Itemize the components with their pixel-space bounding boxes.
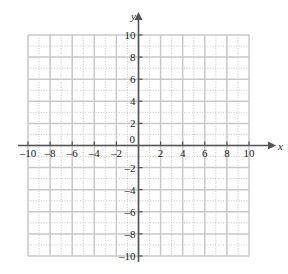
y-tick-label: 8 xyxy=(130,51,136,63)
y-tick-label: 6 xyxy=(130,73,136,85)
y-axis-label: y xyxy=(130,10,136,22)
y-tick-label: 2 xyxy=(130,117,136,129)
x-tick-label: 4 xyxy=(180,147,186,159)
figure-background xyxy=(0,0,288,274)
x-tick-label: –6 xyxy=(66,147,79,159)
x-tick-label: –2 xyxy=(110,147,122,159)
x-axis-label: x xyxy=(277,140,283,152)
x-tick-label: –10 xyxy=(19,147,37,159)
origin-label: 0 xyxy=(130,133,136,145)
y-tick-label: –4 xyxy=(124,184,137,196)
y-tick-label: –8 xyxy=(124,228,137,240)
x-tick-label: 10 xyxy=(244,147,256,159)
y-tick-label: –2 xyxy=(124,162,136,174)
y-tick-label: 4 xyxy=(130,95,136,107)
x-tick-label: 2 xyxy=(158,147,164,159)
x-tick-label: 6 xyxy=(202,147,208,159)
x-tick-label: –4 xyxy=(88,147,101,159)
coordinate-plane-figure: –10–8–6–4–2246810246810–2–4–6–8–10 x y 0 xyxy=(0,0,288,274)
y-tick-label: –10 xyxy=(118,250,136,262)
x-tick-label: –8 xyxy=(44,147,57,159)
coordinate-plane-svg: –10–8–6–4–2246810246810–2–4–6–8–10 x y 0 xyxy=(0,0,288,274)
x-tick-label: 8 xyxy=(224,147,230,159)
y-tick-label: 10 xyxy=(125,29,137,41)
y-tick-label: –6 xyxy=(124,206,137,218)
